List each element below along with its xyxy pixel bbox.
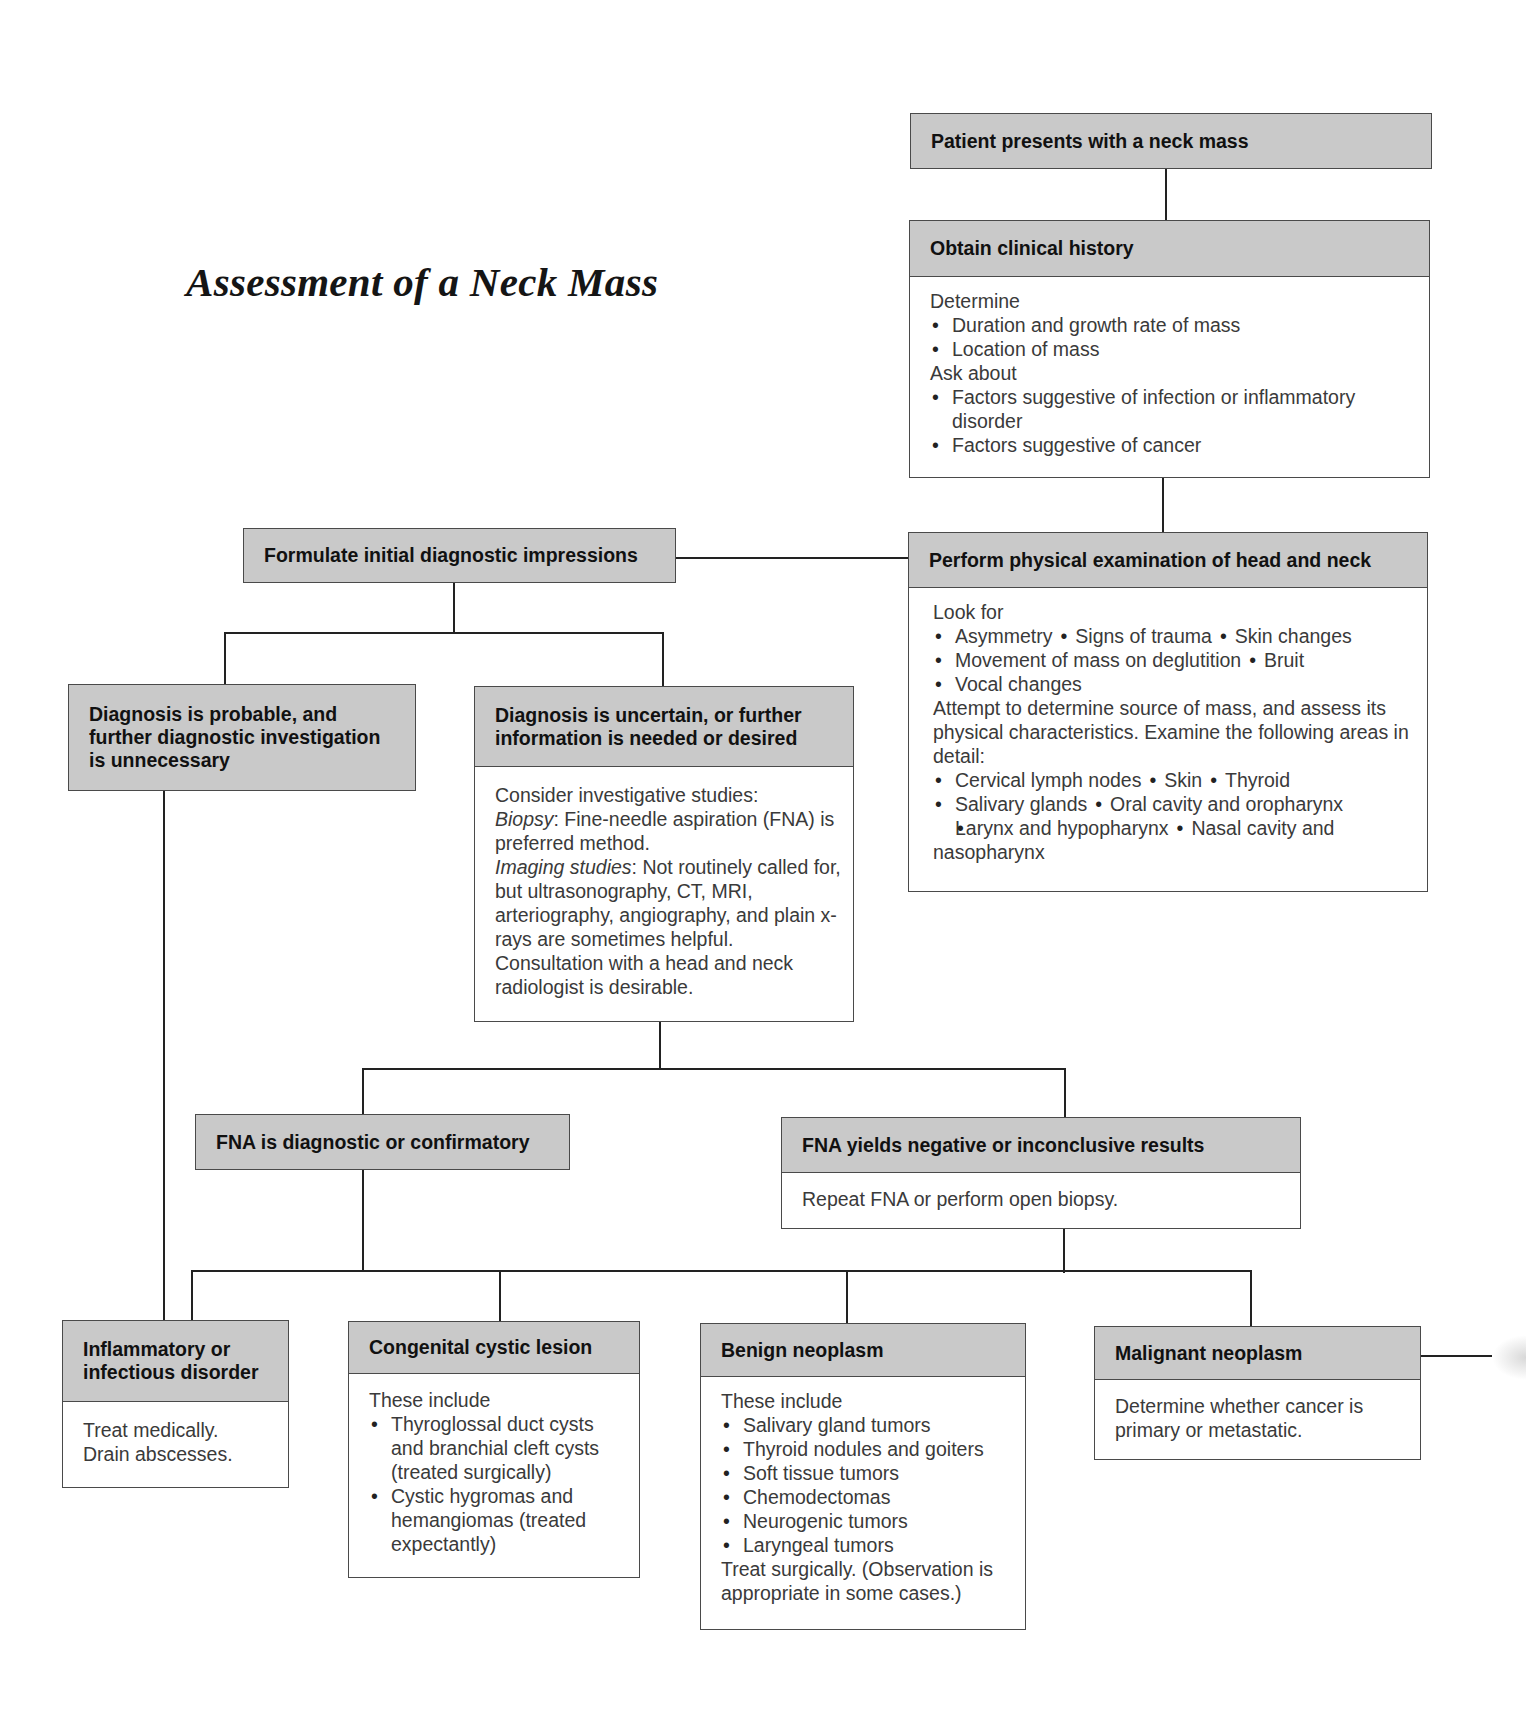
list-item: Neurogenic tumors [721, 1509, 1005, 1533]
connector [362, 1068, 364, 1114]
node-diagnosis-uncertain: Diagnosis is uncertain, or further infor… [474, 686, 854, 1022]
body-text: Drain abscesses. [83, 1442, 268, 1466]
body-text: Repeat FNA or perform open biopsy. [802, 1187, 1280, 1211]
node-benign-neoplasm: Benign neoplasm These include Salivary g… [700, 1323, 1026, 1630]
list-item: AsymmetrySigns of traumaSkin changes [933, 624, 1413, 648]
node-header: Malignant neoplasm [1095, 1327, 1420, 1380]
connector [362, 1068, 1066, 1070]
node-fna-diagnostic: FNA is diagnostic or confirmatory [195, 1114, 570, 1170]
exam-instructions: Attempt to determine source of mass, and… [933, 696, 1413, 768]
node-header: Obtain clinical history [910, 221, 1429, 277]
section-label: Look for [933, 600, 1413, 624]
list-item: Factors suggestive of cancer [930, 433, 1409, 457]
node-header: Inflammatory or infectious disorder [63, 1321, 288, 1402]
list-item: Thyroid nodules and goiters [721, 1437, 1005, 1461]
connector [1064, 1068, 1066, 1117]
node-malignant-neoplasm: Malignant neoplasm Determine whether can… [1094, 1326, 1421, 1460]
node-fna-negative: FNA yields negative or inconclusive resu… [781, 1117, 1301, 1229]
body-text: Treat surgically. (Observation is approp… [721, 1557, 1005, 1605]
section-label: These include [369, 1388, 619, 1412]
node-formulate-impressions: Formulate initial diagnostic impressions [243, 528, 676, 583]
connector [362, 1170, 364, 1271]
node-header: Diagnosis is uncertain, or further infor… [475, 687, 853, 767]
connector [191, 1270, 1252, 1272]
list-item: Factors suggestive of infection or infla… [930, 385, 1409, 433]
list-item: Movement of mass on deglutitionBruit [933, 648, 1413, 672]
connector [1162, 478, 1164, 532]
connector [1421, 1355, 1493, 1357]
list-item: Cervical lymph nodesSkinThyroid [933, 768, 1413, 792]
node-inflammatory-disorder: Inflammatory or infectious disorder Trea… [62, 1320, 289, 1488]
node-header: Diagnosis is probable, and further diagn… [69, 685, 415, 790]
body-text: Consider investigative studies: [495, 783, 841, 807]
list-item: Cystic hygromas and hemangiomas (treated… [369, 1484, 619, 1556]
list-item: Laryngeal tumors [721, 1533, 1005, 1557]
body-text: Biopsy: Fine-needle aspiration (FNA) is … [495, 807, 841, 855]
connector [453, 583, 455, 634]
node-header: FNA yields negative or inconclusive resu… [782, 1118, 1300, 1173]
list-item: Chemodectomas [721, 1485, 1005, 1509]
connector [224, 632, 226, 684]
connector [499, 1270, 501, 1321]
page-edge-shadow [1492, 1335, 1526, 1380]
list-item: Location of mass [930, 337, 1409, 361]
body-text: Consultation with a head and neck radiol… [495, 951, 841, 999]
connector [1250, 1270, 1252, 1326]
connector [163, 791, 165, 1320]
connector [662, 632, 664, 686]
list-item: Salivary glandsOral cavity and oropharyn… [933, 792, 1413, 816]
list-item: Soft tissue tumors [721, 1461, 1005, 1485]
section-label: Determine [930, 289, 1409, 313]
node-clinical-history: Obtain clinical history Determine Durati… [909, 220, 1430, 478]
section-label: Ask about [930, 361, 1409, 385]
node-header: Benign neoplasm [701, 1324, 1025, 1377]
body-text: Imaging studies: Not routinely called fo… [495, 855, 841, 951]
body-text: Determine whether cancer is primary or m… [1115, 1394, 1400, 1442]
list-item: Duration and growth rate of mass [930, 313, 1409, 337]
connector [191, 1270, 193, 1320]
section-label: These include [721, 1389, 1005, 1413]
connector [1063, 1229, 1065, 1273]
list-item: Larynx and hypopharynxNasal cavity and n… [933, 816, 1413, 864]
node-diagnosis-probable: Diagnosis is probable, and further diagn… [68, 684, 416, 791]
node-header: FNA is diagnostic or confirmatory [196, 1115, 569, 1169]
diagram-title: Assessment of a Neck Mass [186, 258, 658, 306]
node-header: Congenital cystic lesion [349, 1322, 639, 1374]
connector [224, 632, 664, 634]
node-header: Formulate initial diagnostic impressions [244, 529, 675, 582]
list-item: Salivary gland tumors [721, 1413, 1005, 1437]
node-congenital-cystic-lesion: Congenital cystic lesion These include T… [348, 1321, 640, 1578]
connector [659, 1022, 661, 1070]
node-physical-exam: Perform physical examination of head and… [908, 532, 1428, 892]
node-header: Patient presents with a neck mass [911, 114, 1431, 168]
connector [846, 1270, 848, 1323]
list-item: Vocal changes [933, 672, 1413, 696]
list-item: Thyroglossal duct cysts and branchial cl… [369, 1412, 619, 1484]
body-text: Treat medically. [83, 1418, 268, 1442]
node-header: Perform physical examination of head and… [909, 533, 1427, 588]
node-patient-presents: Patient presents with a neck mass [910, 113, 1432, 169]
connector [1165, 168, 1167, 220]
connector [676, 557, 908, 559]
